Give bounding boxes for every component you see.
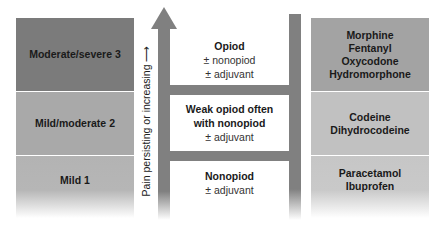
pain-level-column: Moderate/severe 3 Mild/moderate 2 Mild 1 bbox=[16, 18, 134, 218]
axis-label-text: Pain persisting or increasing bbox=[140, 65, 152, 197]
drugs-level-1: Paracetamol Ibuprofen bbox=[311, 156, 429, 218]
step-1-title: Nonopiod bbox=[205, 169, 254, 183]
ladder-rung-lower bbox=[170, 151, 289, 161]
up-arrow-icon: ⟶ bbox=[140, 46, 152, 62]
ladder-left-rail bbox=[158, 28, 170, 220]
ladder-right-rail bbox=[289, 14, 301, 220]
drug-column: Morphine Fentanyl Oxycodone Hydromorphon… bbox=[311, 18, 429, 218]
ladder-rung-upper bbox=[170, 85, 289, 95]
drug-item: Morphine bbox=[346, 29, 393, 42]
drug-item: Fentanyl bbox=[348, 42, 391, 55]
step-2-title: Weak opiod often bbox=[186, 102, 273, 116]
pain-level-2-label: Mild/moderate 2 bbox=[35, 117, 115, 130]
drugs-level-2: Codeine Dihydrocodeine bbox=[311, 92, 429, 155]
pain-level-3-label: Moderate/severe 3 bbox=[29, 48, 121, 61]
step-2-title-2: with nonopiod bbox=[194, 116, 266, 130]
step-3: Opiod ± nonopiod ± adjuvant bbox=[170, 34, 289, 85]
drugs-level-3: Morphine Fentanyl Oxycodone Hydromorphon… bbox=[311, 18, 429, 91]
pain-level-1: Mild 1 bbox=[16, 156, 134, 218]
step-2: Weak opiod often with nonopiod ± adjuvan… bbox=[170, 95, 289, 151]
step-3-line-2: ± adjuvant bbox=[205, 67, 253, 81]
step-3-line-1: ± nonopiod bbox=[204, 53, 256, 67]
drug-item: Hydromorphone bbox=[329, 68, 411, 81]
pain-level-3: Moderate/severe 3 bbox=[16, 18, 134, 91]
drug-item: Oxycodone bbox=[341, 55, 398, 68]
arrow-head-icon bbox=[151, 7, 177, 29]
step-3-title: Opiod bbox=[214, 39, 244, 53]
axis-label: Pain persisting or increasing ⟶ bbox=[139, 50, 153, 192]
step-2-line-1: ± adjuvant bbox=[205, 130, 253, 144]
drug-item: Paracetamol bbox=[339, 167, 401, 180]
drug-item: Ibuprofen bbox=[339, 180, 401, 193]
pain-level-1-label: Mild 1 bbox=[60, 174, 90, 187]
step-1-line-1: ± adjuvant bbox=[205, 183, 253, 197]
step-1: Nonopiod ± adjuvant bbox=[170, 161, 289, 205]
drug-item: Codeine bbox=[349, 111, 390, 124]
drug-item: Dihydrocodeine bbox=[330, 124, 409, 137]
pain-level-2: Mild/moderate 2 bbox=[16, 92, 134, 155]
